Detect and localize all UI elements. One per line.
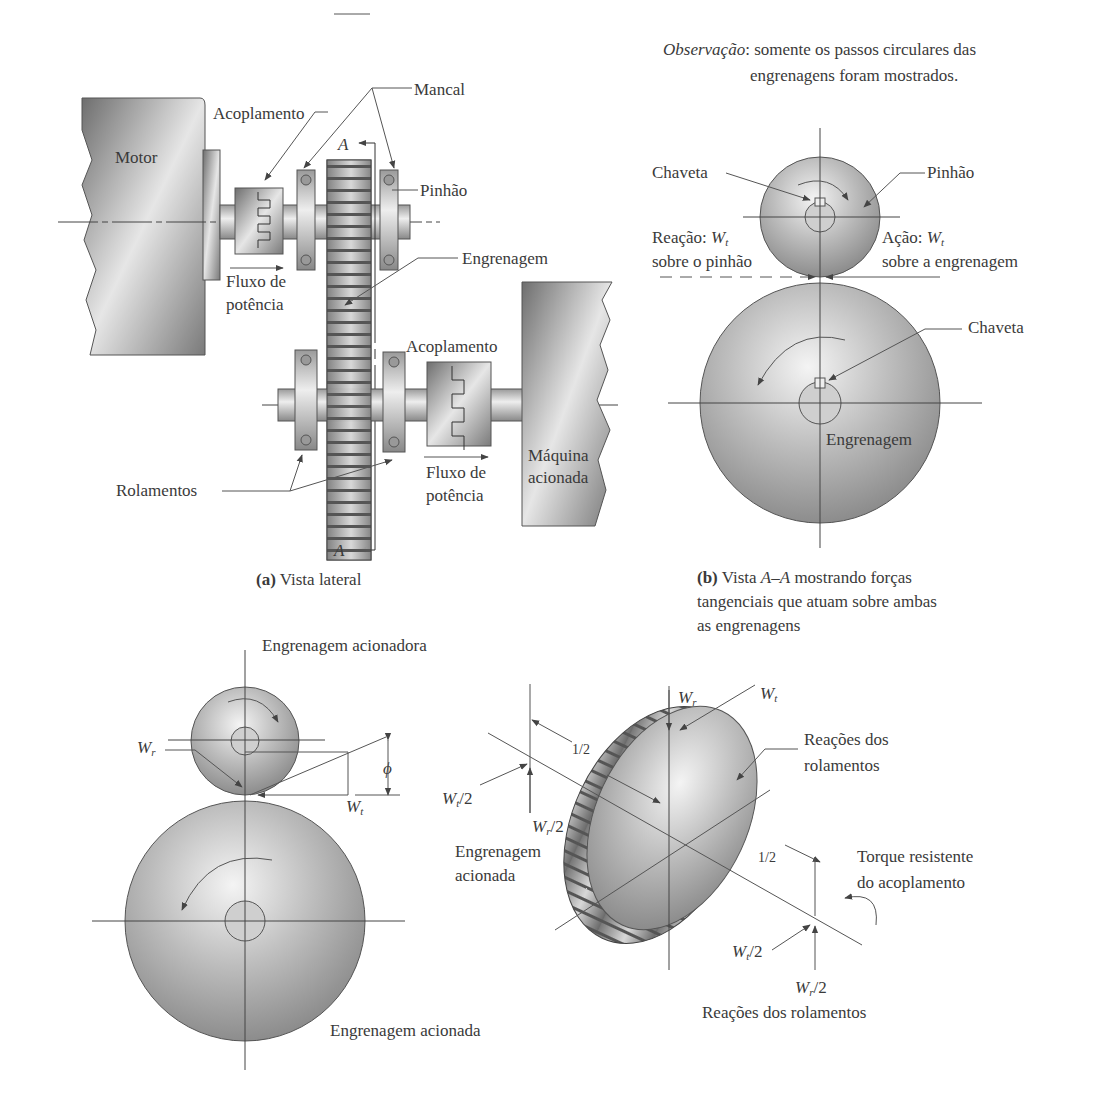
wt-label: Wt	[346, 797, 363, 821]
pinion-label: Pinhão	[420, 181, 467, 201]
flow-top-line1: Fluxo de	[226, 272, 286, 292]
driven-gear-label: Engrenagem acionada	[330, 1021, 481, 1041]
driving-gear-label: Engrenagem acionadora	[262, 636, 427, 656]
observation-prefix: Observação	[663, 40, 745, 59]
half-bottom-label: 1/2	[758, 848, 776, 868]
panel-c-force-diagram	[92, 650, 405, 1070]
gear-b-label: Engrenagem	[826, 430, 912, 450]
wt-top-label: Wt	[760, 684, 777, 708]
lower-bearing-left	[295, 350, 317, 450]
reaction-line2: sobre o pinhão	[652, 252, 752, 272]
observation-line1: : somente os passos circulares das	[745, 40, 976, 59]
gear-label: Engrenagem	[462, 249, 548, 269]
key-bottom-label: Chaveta	[968, 318, 1024, 338]
bearings-label: Rolamentos	[116, 481, 197, 501]
caption-a: (a) Vista lateral	[256, 570, 361, 590]
bearing-reactions-line2: rolamentos	[804, 756, 880, 776]
observation-note: Observação: somente os passos circulares…	[663, 40, 976, 60]
wr-label: Wr	[137, 738, 155, 762]
left-wt-half-label: Wt/2	[442, 789, 472, 813]
phi-label: ϕ	[383, 759, 392, 779]
bearing-reactions-bottom: Reações dos rolamentos	[702, 1003, 866, 1023]
lower-bearing-right	[383, 352, 405, 452]
section-a-bottom: A	[334, 541, 344, 561]
panel-b-section-view	[660, 128, 982, 548]
observation-line2: engrenagens foram mostrados.	[750, 66, 958, 86]
lower-coupling	[427, 362, 491, 446]
top-bearing-right	[380, 170, 398, 270]
bearing-label: Mancal	[414, 80, 465, 100]
torque-line1: Torque resistente	[857, 847, 973, 867]
driven-gear-d-line1: Engrenagem	[455, 842, 541, 862]
motor-body	[82, 98, 205, 355]
flow-top-line2: potência	[226, 295, 284, 315]
bearing-reactions-line1: Reações dos	[804, 730, 889, 750]
driven-gear-d-line2: acionada	[455, 866, 515, 886]
coupling-bottom-label: Acoplamento	[406, 337, 498, 357]
wr-top-label: Wr	[678, 688, 696, 712]
motor-flange	[203, 150, 220, 280]
half-top-label: 1/2	[572, 740, 590, 760]
torque-line2: do acoplamento	[857, 873, 965, 893]
driven-machine	[522, 282, 612, 526]
reaction-label: Reação: Wt	[652, 228, 728, 252]
section-a-top: A	[338, 135, 348, 155]
caption-b: (b) Vista A–A mostrando forças tangencia…	[697, 566, 937, 638]
driven-machine-line2: acionada	[528, 468, 588, 488]
driven-machine-line1: Máquina	[528, 446, 588, 466]
action-label: Ação: Wt	[882, 228, 944, 252]
key-top-label: Chaveta	[652, 163, 708, 183]
top-bearing-left	[297, 170, 315, 270]
action-line2: sobre a engrenagem	[882, 252, 1018, 272]
coupling-top-label: Acoplamento	[213, 104, 305, 124]
right-wt-half-label: Wt/2	[732, 942, 762, 966]
flow-bottom-line1: Fluxo de	[426, 463, 486, 483]
top-coupling	[235, 188, 283, 254]
right-wr-half-label: Wr/2	[795, 978, 827, 1002]
flow-bottom-line2: potência	[426, 486, 484, 506]
left-wr-half-label: Wr/2	[532, 817, 564, 841]
pinion-b-label: Pinhão	[927, 163, 974, 183]
motor-label: Motor	[115, 148, 158, 168]
